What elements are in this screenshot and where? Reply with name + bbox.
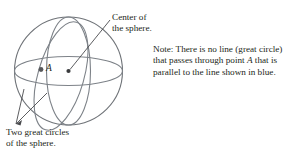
note-line-2-pre: that passes through point [153, 55, 247, 65]
sphere-center-dot [66, 69, 70, 73]
point-a-dot [39, 67, 44, 72]
center-annotation: Center of the sphere. [112, 12, 152, 35]
two-circles-annotation: Two great circles of the sphere. [6, 127, 69, 150]
note-line-3: parallel to the line shown in blue. [153, 67, 282, 78]
note-annotation: Note: There is no line (great circle) th… [153, 44, 282, 78]
tilted-great-circle [23, 16, 98, 136]
two-circles-leader-line-1 [16, 93, 47, 124]
two-circles-annotation-line-2: of the sphere. [6, 138, 69, 149]
note-line-2: that passes through point A that is [153, 55, 282, 66]
point-a-label: A [46, 63, 52, 73]
note-line-1: Note: There is no line (great circle) [153, 44, 282, 55]
center-annotation-line-2: the sphere. [112, 23, 152, 34]
note-line-2-post: that is [253, 55, 278, 65]
two-circles-annotation-line-1: Two great circles [6, 127, 69, 138]
center-annotation-line-1: Center of [112, 12, 152, 23]
